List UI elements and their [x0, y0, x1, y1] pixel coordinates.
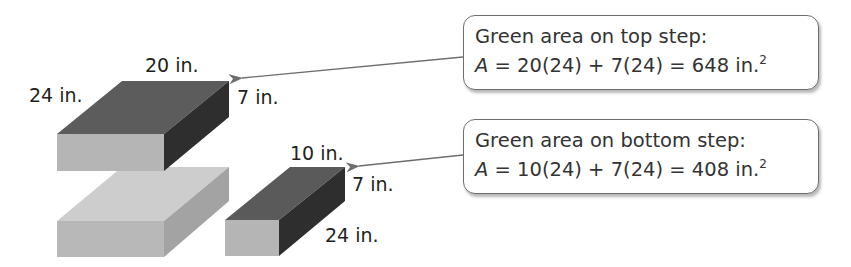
top-box-front-face [57, 134, 164, 171]
top-width-label: 20 in. [145, 56, 199, 75]
lower-box-front-face [57, 221, 164, 257]
small-depth-label: 24 in. [325, 226, 379, 245]
callout-title: Green area on top step: [475, 22, 818, 51]
top-height-label: 7 in. [237, 88, 279, 107]
top-depth-label: 24 in. [29, 86, 83, 105]
top-step-box [57, 81, 229, 171]
equation-text: = 20(24) + 7(24) = 648 in. [488, 54, 759, 77]
callout-equation: A = 20(24) + 7(24) = 648 in.2 [475, 51, 818, 80]
small-box-front-face [225, 220, 279, 256]
arrow-bottom [359, 155, 463, 166]
small-height-label: 7 in. [352, 175, 394, 194]
exponent: 2 [759, 157, 767, 171]
equation-text: = 10(24) + 7(24) = 408 in. [488, 158, 759, 181]
variable-a: A [475, 158, 488, 181]
callout-equation: A = 10(24) + 7(24) = 408 in.2 [475, 155, 818, 184]
callout-bottom-step: Green area on bottom step: A = 10(24) + … [463, 119, 819, 194]
callout-top-step: Green area on top step: A = 20(24) + 7(2… [463, 15, 819, 90]
exponent: 2 [759, 53, 767, 67]
arrow-top [242, 57, 463, 78]
small-width-label: 10 in. [290, 144, 344, 163]
variable-a: A [475, 54, 488, 77]
callout-title: Green area on bottom step: [475, 126, 818, 155]
lower-step-box [57, 167, 229, 257]
